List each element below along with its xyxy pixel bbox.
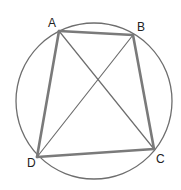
vertex-label-c: C: [156, 152, 165, 166]
vertex-label-d: D: [27, 156, 36, 170]
diagonal-ac: [59, 31, 154, 149]
vertex-label-b: B: [137, 20, 145, 34]
side-cd: [37, 149, 154, 157]
diagonal-bd: [37, 35, 133, 157]
quadrilateral-sides: [37, 31, 154, 157]
side-bc: [133, 35, 154, 149]
side-da: [37, 31, 59, 157]
cyclic-quadrilateral-diagram: A B C D: [0, 0, 181, 190]
side-ab: [59, 31, 133, 35]
vertex-label-a: A: [48, 16, 56, 30]
